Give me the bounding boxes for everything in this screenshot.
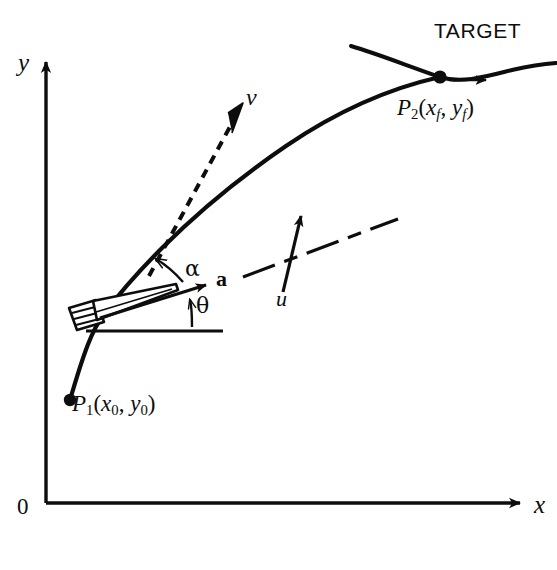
x-axis-label: x <box>534 492 545 517</box>
intercept-open-paren: ( <box>418 95 426 120</box>
target-outbound-path <box>440 63 556 80</box>
intercept-point-marker <box>433 70 446 83</box>
y-axis-label: y <box>18 50 29 75</box>
intercept-point-label: P2(xf, yf) <box>397 96 474 122</box>
launch-coord-y: y <box>130 391 140 416</box>
intercept-close-paren: ) <box>466 95 474 120</box>
launch-coord-x-sub: 0 <box>111 402 118 418</box>
target-inbound-path <box>351 46 440 77</box>
launch-point-label: P1(x0, y0) <box>72 392 155 418</box>
axis-lines <box>46 62 520 503</box>
angle-alpha-label: α <box>185 258 200 280</box>
launch-coord-y-sub: 0 <box>140 402 147 418</box>
thrust-vector-label: a <box>216 268 227 290</box>
angle-theta-arc <box>190 300 192 327</box>
launch-close-paren: ) <box>148 391 156 416</box>
velocity-vector-label: v <box>246 85 257 109</box>
launch-comma: , <box>119 391 131 416</box>
missile-trajectory-curve <box>70 77 440 400</box>
angle-theta-label: θ <box>196 295 209 317</box>
thrust-axis-extension-line <box>243 219 398 277</box>
launch-open-paren: ( <box>93 391 101 416</box>
target-label: TARGET <box>434 20 521 41</box>
launch-point-name: P <box>72 391 86 416</box>
angle-alpha-arc <box>156 259 183 282</box>
origin-label: 0 <box>17 495 29 518</box>
launch-coord-x: x <box>101 391 111 416</box>
intercept-coord-x: x <box>426 95 436 120</box>
intercept-point-name: P <box>397 95 411 120</box>
target-velocity-u-arrow <box>283 216 301 292</box>
intercept-coord-y: y <box>452 95 462 120</box>
trajectory-figure: y x 0 TARGET P2(xf, yf) P1(x0, y0) v a u… <box>0 0 557 570</box>
target-velocity-label: u <box>276 288 287 310</box>
figure-canvas <box>0 0 557 570</box>
intercept-comma: , <box>440 95 452 120</box>
